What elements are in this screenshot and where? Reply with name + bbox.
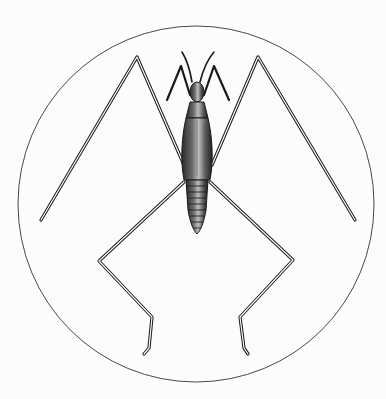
- insect-engraving: [0, 0, 386, 399]
- insect-body: [182, 82, 212, 234]
- illustration: [0, 0, 386, 399]
